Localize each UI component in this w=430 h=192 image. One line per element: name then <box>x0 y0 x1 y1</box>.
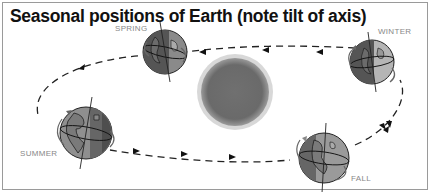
arrow-icon <box>229 154 236 160</box>
earth-winter <box>349 32 395 92</box>
sun <box>197 54 273 130</box>
arrow-icon <box>262 47 269 53</box>
arrow-icon <box>181 151 188 157</box>
earth-spring <box>142 22 187 82</box>
arrow-icon <box>78 64 85 70</box>
arrow-icon <box>199 49 206 55</box>
label-fall: FALL <box>351 174 371 183</box>
arrow-icon <box>133 148 140 154</box>
label-summer: SUMMER <box>20 149 57 158</box>
earth-fall <box>297 123 350 192</box>
label-winter: WINTER <box>378 27 411 36</box>
arrow-icon <box>316 49 323 55</box>
orbit-diagram <box>0 0 430 192</box>
arrow-icon <box>386 121 392 128</box>
label-spring: SPRING <box>115 24 147 33</box>
earth-summer <box>57 97 114 169</box>
